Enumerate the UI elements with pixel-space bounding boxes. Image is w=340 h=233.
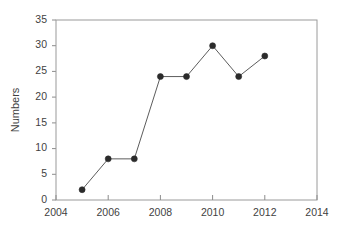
y-axis-tick-labels: 0 5 10 15 20 25 30 35 xyxy=(35,13,47,205)
y-axis-title: Numbers xyxy=(9,87,21,132)
data-point xyxy=(262,53,268,59)
y-tick-label: 35 xyxy=(35,13,47,25)
y-axis-ticks xyxy=(52,20,56,200)
y-tick-label: 5 xyxy=(41,167,47,179)
x-axis-tick-labels: 2004 2006 2008 2010 2012 2014 xyxy=(44,206,329,218)
data-point xyxy=(236,74,242,80)
y-tick-label: 30 xyxy=(35,38,47,50)
x-tick-label: 2008 xyxy=(149,206,173,218)
series-markers xyxy=(79,43,268,193)
x-tick-label: 2006 xyxy=(97,206,121,218)
x-tick-label: 2012 xyxy=(253,206,277,218)
x-tick-label: 2010 xyxy=(201,206,225,218)
line-chart: Numbers 0 5 10 15 20 25 30 35 xyxy=(0,0,340,233)
data-point xyxy=(157,74,163,80)
y-tick-label: 15 xyxy=(35,116,47,128)
data-point xyxy=(79,187,85,193)
y-tick-label: 10 xyxy=(35,141,47,153)
data-point xyxy=(210,43,216,49)
y-tick-label: 20 xyxy=(35,90,47,102)
series-line xyxy=(82,46,265,190)
x-axis-ticks xyxy=(56,195,317,200)
plot-frame xyxy=(56,20,317,200)
y-tick-label: 25 xyxy=(35,64,47,76)
x-tick-label: 2014 xyxy=(305,206,329,218)
chart-figure: Numbers 0 5 10 15 20 25 30 35 xyxy=(0,0,340,233)
data-point xyxy=(184,74,190,80)
x-tick-label: 2004 xyxy=(44,206,68,218)
data-point xyxy=(105,156,111,162)
y-tick-label: 0 xyxy=(41,193,47,205)
data-point xyxy=(131,156,137,162)
